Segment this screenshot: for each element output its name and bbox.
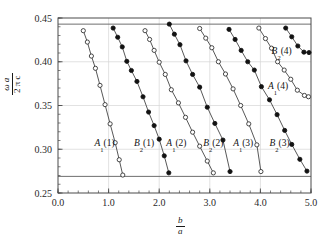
y-axis-title: ω a 2 π c (2, 73, 23, 95)
data-point (231, 87, 235, 91)
curve-label-B2(2): B2(2) (203, 138, 223, 153)
data-point (295, 88, 299, 92)
data-point (282, 68, 286, 72)
data-point (125, 59, 129, 63)
data-point (129, 68, 133, 72)
curve-label-B2(3): B2(3) (270, 138, 290, 153)
curve-label-B2(1): B2(1) (134, 138, 154, 153)
data-point (204, 36, 208, 40)
data-point (290, 142, 294, 146)
data-point (257, 26, 261, 30)
data-point (167, 171, 171, 175)
data-point (259, 169, 263, 173)
data-point (157, 137, 161, 141)
data-point (228, 169, 232, 173)
data-point (263, 36, 267, 40)
data-point (135, 79, 139, 83)
data-point (211, 171, 215, 175)
x-tick-label: 2.0 (153, 197, 166, 208)
data-point (167, 22, 171, 26)
data-point (163, 72, 167, 76)
data-point (205, 105, 209, 109)
data-point (98, 83, 102, 87)
data-point (108, 122, 112, 126)
data-point (198, 144, 202, 148)
data-point (223, 72, 227, 76)
data-point (178, 43, 182, 47)
x-tick-label: 4.0 (254, 197, 267, 208)
data-point (283, 128, 287, 132)
data-point (305, 169, 309, 173)
series-line-A1(1) (83, 31, 122, 175)
series-B2(2) (167, 22, 232, 174)
data-point (183, 115, 187, 119)
data-point (191, 130, 195, 134)
data-point (81, 29, 85, 33)
data-point (233, 37, 237, 41)
data-point (152, 48, 156, 52)
y-axis-numerator: ω a (1, 78, 11, 91)
data-point (89, 54, 93, 58)
data-point (246, 60, 250, 64)
data-point (198, 85, 202, 89)
data-point (210, 46, 214, 50)
curve-label-A1(2): A1(2) (165, 138, 186, 153)
plot-area: 0.01.02.03.04.05.00.250.300.350.400.45 A… (0, 0, 327, 242)
y-tick-label: 0.25 (35, 188, 53, 199)
gridlines (58, 18, 311, 193)
data-point (252, 68, 256, 72)
data-point (290, 35, 294, 39)
data-point (267, 98, 271, 102)
x-axis-numerator: b (178, 215, 183, 225)
data-point (157, 60, 161, 64)
data-point (143, 29, 147, 33)
data-point (275, 113, 279, 117)
data-point (152, 124, 156, 128)
curve-label-B2(4): B2(4) (272, 46, 292, 61)
data-point (176, 101, 180, 105)
data-point (172, 32, 176, 36)
x-tick-label: 3.0 (204, 197, 217, 208)
data-point (216, 60, 220, 64)
data-point (289, 77, 293, 81)
data-point (306, 95, 310, 99)
data-point (227, 27, 231, 31)
data-point (302, 50, 306, 54)
data-point (213, 121, 217, 125)
data-point (103, 103, 107, 107)
data-point (111, 26, 115, 30)
data-point (146, 110, 150, 114)
data-point (117, 158, 121, 162)
data-point (191, 72, 195, 76)
data-point (147, 37, 151, 41)
x-axis-title: b a (176, 216, 185, 237)
x-tick-label: 5.0 (305, 197, 318, 208)
data-point (120, 45, 124, 49)
curve-label-A1(3): A1(3) (232, 138, 253, 153)
data-point (296, 44, 300, 48)
data-point (259, 85, 263, 89)
series-A1(3) (198, 26, 263, 173)
x-axis-denominator: a (178, 226, 183, 236)
data-point (307, 50, 311, 54)
data-point (85, 40, 89, 44)
y-tick-label: 0.45 (35, 13, 53, 24)
data-point (205, 159, 209, 163)
data-point (162, 154, 166, 158)
data-point (255, 143, 259, 147)
y-axis-denominator: 2 π c (12, 75, 22, 93)
data-point (169, 88, 173, 92)
curve-label-A1(1): A1(1) (93, 138, 114, 153)
series-B2(1) (111, 26, 171, 175)
x-tick-label: 0.0 (52, 197, 65, 208)
data-point (93, 66, 97, 70)
data-point (247, 122, 251, 126)
y-tick-label: 0.30 (35, 144, 53, 155)
series-A1(1) (81, 29, 125, 178)
data-point (302, 93, 306, 97)
x-tick-label: 1.0 (102, 197, 115, 208)
data-point (239, 103, 243, 107)
data-point (239, 48, 243, 52)
y-tick-label: 0.35 (35, 100, 53, 111)
curve-label-A1(4): A1(4) (267, 81, 288, 96)
